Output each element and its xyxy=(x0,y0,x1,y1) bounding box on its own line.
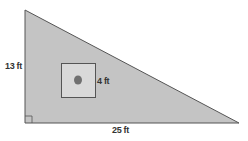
height-label: 13 ft xyxy=(5,61,22,71)
square-center-mark xyxy=(74,76,82,85)
base-label: 25 ft xyxy=(112,125,129,135)
right-triangle xyxy=(25,10,239,123)
diagram-canvas xyxy=(0,0,248,141)
square-side-label: 4 ft xyxy=(97,76,109,86)
